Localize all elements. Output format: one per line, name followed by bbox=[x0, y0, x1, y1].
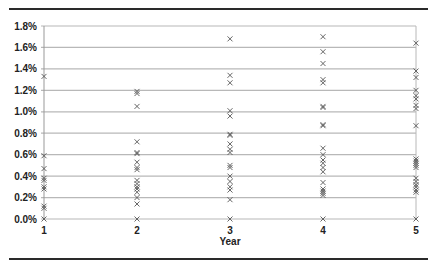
data-point-x-marker bbox=[321, 61, 326, 66]
data-point-x-marker bbox=[228, 188, 233, 193]
data-point-x-marker bbox=[228, 73, 233, 78]
x-tick-label: 3 bbox=[227, 225, 233, 236]
data-point-x-marker bbox=[135, 201, 140, 206]
data-point-x-marker bbox=[228, 132, 233, 137]
data-point-x-marker bbox=[321, 104, 326, 109]
data-point-x-marker bbox=[228, 114, 233, 119]
data-point-x-marker bbox=[321, 180, 326, 185]
data-point-x-marker bbox=[135, 104, 140, 109]
data-point-x-marker bbox=[321, 49, 326, 54]
data-point-x-marker bbox=[135, 160, 140, 165]
data-point-x-marker bbox=[228, 36, 233, 41]
y-tick-label: 1.2% bbox=[14, 85, 37, 96]
data-point-x-marker bbox=[321, 146, 326, 151]
x-tick-label: 4 bbox=[320, 225, 326, 236]
y-axis-ticks: 0.0%0.2%0.4%0.6%0.8%1.0%1.2%1.4%1.6%1.8% bbox=[14, 21, 37, 225]
data-point-x-marker bbox=[228, 141, 233, 146]
data-point-x-marker bbox=[321, 123, 326, 128]
data-point-x-marker bbox=[228, 179, 233, 184]
data-point-x-marker bbox=[321, 105, 326, 110]
data-point-x-marker bbox=[321, 169, 326, 174]
bottom-rule bbox=[9, 258, 428, 260]
scatter-chart: 0.0%0.2%0.4%0.6%0.8%1.0%1.2%1.4%1.6%1.8%… bbox=[0, 0, 435, 263]
y-tick-label: 0.6% bbox=[14, 149, 37, 160]
x-axis-label: Year bbox=[219, 236, 240, 247]
y-tick-label: 0.0% bbox=[14, 214, 37, 225]
data-point-x-marker bbox=[135, 190, 140, 195]
x-tick-label: 2 bbox=[134, 225, 140, 236]
data-point-x-marker bbox=[321, 161, 326, 166]
y-tick-label: 1.4% bbox=[14, 63, 37, 74]
data-point-x-marker bbox=[321, 80, 326, 85]
data-point-x-marker bbox=[321, 122, 326, 127]
x-axis-ticks: 12345 bbox=[41, 225, 419, 236]
data-point-x-marker bbox=[135, 139, 140, 144]
x-tick-label: 1 bbox=[41, 225, 47, 236]
y-tick-label: 0.4% bbox=[14, 171, 37, 182]
y-tick-label: 0.2% bbox=[14, 192, 37, 203]
data-point-x-marker bbox=[321, 165, 326, 170]
data-point-x-marker bbox=[321, 34, 326, 39]
data-point-x-marker bbox=[228, 108, 233, 113]
data-point-x-marker bbox=[135, 151, 140, 156]
data-points bbox=[42, 34, 419, 221]
y-tick-label: 1.6% bbox=[14, 42, 37, 53]
y-tick-label: 1.8% bbox=[14, 21, 37, 32]
x-tick-label: 5 bbox=[413, 225, 419, 236]
data-point-x-marker bbox=[228, 80, 233, 85]
y-tick-label: 1.0% bbox=[14, 106, 37, 117]
gridlines bbox=[41, 26, 416, 219]
y-tick-label: 0.8% bbox=[14, 128, 37, 139]
